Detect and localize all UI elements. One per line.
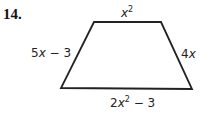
left-coef: 5 bbox=[31, 46, 39, 60]
bottom-var: x bbox=[118, 96, 125, 110]
trapezoid bbox=[61, 22, 192, 89]
right-coef: 4 bbox=[181, 47, 189, 61]
right-side-label: 4x bbox=[181, 48, 196, 60]
top-side-label: x2 bbox=[121, 6, 133, 19]
right-var: x bbox=[189, 47, 196, 61]
left-rest: − 3 bbox=[46, 46, 71, 60]
bottom-side-label: 2x2 − 3 bbox=[110, 96, 155, 109]
left-side-label: 5x − 3 bbox=[31, 47, 71, 59]
bottom-rest: − 3 bbox=[130, 96, 155, 110]
top-exp: 2 bbox=[128, 5, 133, 14]
bottom-coef: 2 bbox=[110, 96, 118, 110]
left-var: x bbox=[39, 46, 46, 60]
